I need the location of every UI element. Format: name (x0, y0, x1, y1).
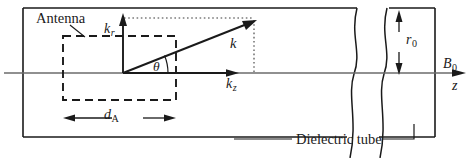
dA-arrowhead-right (164, 115, 176, 122)
magnetic-field-label: B0 (443, 57, 457, 71)
r0-arrowhead-top (396, 10, 403, 22)
magnetic-field-label-sub: 0 (452, 62, 457, 73)
k-vector-label: k (230, 36, 236, 51)
tube-radius-dimension (396, 10, 403, 75)
k-radial-label-sub: r (111, 27, 115, 38)
k-radial-axis (119, 13, 127, 73)
magnetic-field-label-main: B (443, 56, 452, 71)
k-radial-axis-arrowhead (119, 13, 127, 26)
k-axial-axis (123, 69, 239, 77)
antenna-length-label-sub: A (112, 113, 119, 124)
k-wave-vector (123, 20, 257, 73)
tube-radius-label: r0 (406, 33, 417, 47)
antenna-length-dimension (63, 115, 176, 122)
tube-radius-label-main: r (406, 32, 411, 47)
k-axial-label: kz (226, 77, 236, 91)
theta-label: θ (153, 60, 160, 74)
k-radial-label: kr (104, 22, 114, 36)
k-wave-vector-line (123, 24, 247, 73)
antenna-length-label-main: d (104, 107, 111, 122)
k-radial-label-main: k (104, 21, 110, 36)
tube-radius-label-sub: 0 (412, 38, 417, 49)
z-axis-label: z (452, 79, 457, 93)
k-axial-label-sub: z (233, 82, 237, 93)
antenna-length-label: dA (104, 108, 118, 122)
k-wave-vector-arrowhead (242, 20, 257, 30)
dA-arrowhead-left (63, 115, 75, 122)
dielectric-tube-label: Dielectric tube (296, 132, 382, 147)
wave-vector-diagram: Antenna kr k θ kz dA r0 B0 z Dielectric … (0, 0, 476, 158)
k-axial-label-main: k (226, 76, 232, 91)
antenna-label: Antenna (36, 11, 85, 26)
theta-angle-arc (165, 56, 169, 74)
